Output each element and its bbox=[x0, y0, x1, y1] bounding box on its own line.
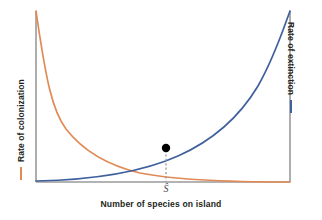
y-axis-right-label: Rate of extinction bbox=[284, 22, 298, 182]
y-axis-right-label-text: Rate of extinction bbox=[286, 22, 296, 95]
equilibrium-point bbox=[162, 144, 170, 152]
equilibrium-tick-label: Ŝ bbox=[148, 183, 184, 194]
extinction-legend-dash bbox=[290, 100, 292, 113]
x-axis-label: Number of species on island bbox=[0, 199, 322, 209]
island-biogeography-chart: Rate of colonization Rate of extinction … bbox=[0, 0, 322, 220]
colonization-legend-dash bbox=[20, 167, 22, 180]
y-axis-left-label: Rate of colonization bbox=[14, 10, 28, 180]
extinction-curve bbox=[36, 11, 290, 181]
y-axis-left-label-text: Rate of colonization bbox=[16, 79, 26, 162]
